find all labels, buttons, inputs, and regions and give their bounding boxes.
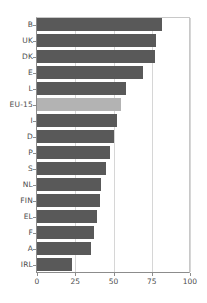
bar-f[interactable] (37, 226, 94, 239)
bar-slot (37, 81, 190, 97)
y-axis-tick-uk (33, 41, 36, 42)
x-axis-label-100: 100 (175, 277, 205, 286)
y-axis-tick-l (33, 89, 36, 90)
bar-irl[interactable] (37, 258, 72, 271)
bar-a[interactable] (37, 242, 91, 255)
y-axis-label-d: D (0, 129, 33, 145)
bar-s[interactable] (37, 162, 106, 175)
x-axis-tick-25 (75, 273, 76, 276)
y-axis-tick-eu-15 (33, 105, 36, 106)
y-axis-label-uk: UK (0, 33, 33, 49)
bar-e[interactable] (37, 66, 143, 79)
bar-slot (37, 209, 190, 225)
y-axis-label-fin: FIN (0, 193, 33, 209)
bar-eu-15[interactable] (37, 98, 121, 111)
y-axis-label-f: F (0, 225, 33, 241)
y-axis-label-i: I (0, 113, 33, 129)
bar-slot (37, 113, 190, 129)
bar-slot (37, 161, 190, 177)
bar-slot (37, 225, 190, 241)
bar-i[interactable] (37, 114, 117, 127)
bar-slot (37, 49, 190, 65)
y-axis-label-l: L (0, 81, 33, 97)
bar-slot (37, 177, 190, 193)
y-axis-label-e: E (0, 65, 33, 81)
y-axis-tick-nl (33, 185, 36, 186)
bar-slot (37, 241, 190, 257)
y-axis-tick-i (33, 121, 36, 122)
y-axis-tick-s (33, 169, 36, 170)
y-axis-category-labels: BUKDKELEU-15IDPSNLFINELFAIRL (0, 17, 33, 273)
x-axis-label-0: 0 (22, 277, 52, 286)
y-axis-tick-irl (33, 265, 36, 266)
bar-slot (37, 193, 190, 209)
x-axis-label-75: 75 (137, 277, 167, 286)
bar-slot (37, 33, 190, 49)
bar-slot (37, 257, 190, 273)
y-axis-tick-d (33, 137, 36, 138)
y-axis-label-el: EL (0, 209, 33, 225)
gridline-x-100 (190, 18, 191, 272)
y-axis-label-a: A (0, 241, 33, 257)
bar-slot (37, 65, 190, 81)
y-axis-label-nl: NL (0, 177, 33, 193)
y-axis-tick-e (33, 73, 36, 74)
y-axis-tick-el (33, 217, 36, 218)
bar-fin[interactable] (37, 194, 100, 207)
y-axis-tick-f (33, 233, 36, 234)
y-axis-tick-dk (33, 57, 36, 58)
bar-slot (37, 97, 190, 113)
bar-uk[interactable] (37, 34, 156, 47)
x-axis: 0255075100 (0, 273, 207, 303)
bar-el[interactable] (37, 210, 97, 223)
x-axis-tick-100 (190, 273, 191, 276)
bar-slot (37, 145, 190, 161)
x-axis-tick-50 (114, 273, 115, 276)
x-axis-tick-0 (37, 273, 38, 276)
x-axis-label-25: 25 (60, 277, 90, 286)
bar-slot (37, 17, 190, 33)
bar-d[interactable] (37, 130, 114, 143)
y-axis-label-irl: IRL (0, 257, 33, 273)
bar-nl[interactable] (37, 178, 101, 191)
bar-chart: BUKDKELEU-15IDPSNLFINELFAIRL 0255075100 (0, 0, 207, 303)
bar-dk[interactable] (37, 50, 155, 63)
bars-container (37, 17, 190, 273)
y-axis-tick-a (33, 249, 36, 250)
y-axis-label-eu-15: EU-15 (0, 97, 33, 113)
bar-p[interactable] (37, 146, 110, 159)
x-axis-tick-75 (152, 273, 153, 276)
x-axis-label-50: 50 (99, 277, 129, 286)
bar-b[interactable] (37, 18, 162, 31)
y-axis-label-p: P (0, 145, 33, 161)
bar-slot (37, 129, 190, 145)
y-axis-tick-fin (33, 201, 36, 202)
bar-l[interactable] (37, 82, 126, 95)
y-axis-tick-b (33, 25, 36, 26)
y-axis-label-s: S (0, 161, 33, 177)
y-axis-label-dk: DK (0, 49, 33, 65)
y-axis-tick-p (33, 153, 36, 154)
y-axis-label-b: B (0, 17, 33, 33)
